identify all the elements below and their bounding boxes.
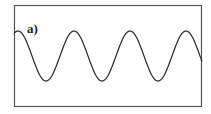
figure-frame [15,6,202,107]
sine-wave-curve [14,31,202,81]
wave-figure: a) [0,0,211,114]
panel-label: a) [27,21,38,36]
